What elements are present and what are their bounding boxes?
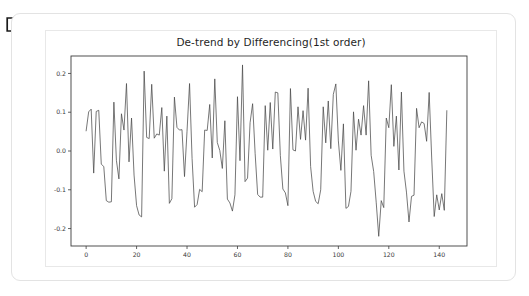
y-tick-label: -0.2 — [54, 225, 66, 232]
x-tick-label: 100 — [332, 251, 344, 258]
y-tick-label: 0.0 — [56, 147, 66, 154]
x-tick-label: 140 — [433, 251, 445, 258]
line-chart-plot: 0.20.10.0-0.1-0.2 020406080100120140 — [46, 31, 498, 268]
x-axis-ticks: 020406080100120140 — [84, 246, 445, 258]
y-tick-label: 0.1 — [56, 108, 66, 115]
axes-frame — [71, 56, 467, 246]
x-tick-label: 0 — [84, 251, 88, 258]
x-tick-label: 80 — [284, 251, 292, 258]
figure-inner: De-trend by Differencing(1st order) 0.20… — [46, 31, 496, 266]
output-cell-card: De-trend by Differencing(1st order) 0.20… — [11, 13, 516, 281]
x-tick-label: 40 — [183, 251, 191, 258]
figure-frame: De-trend by Differencing(1st order) 0.20… — [45, 30, 497, 267]
y-tick-label: -0.1 — [54, 186, 66, 193]
x-tick-label: 20 — [133, 251, 141, 258]
y-axis-ticks: 0.20.10.0-0.1-0.2 — [54, 70, 71, 232]
y-tick-label: 0.2 — [56, 70, 66, 77]
x-tick-label: 60 — [234, 251, 242, 258]
x-tick-label: 120 — [383, 251, 395, 258]
screen: De-trend by Differencing(1st order) 0.20… — [0, 0, 529, 296]
